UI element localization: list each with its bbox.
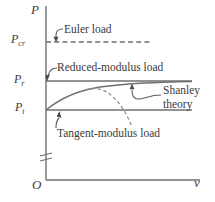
euler-load-leader (54, 29, 63, 43)
descending-branch-curve (80, 89, 132, 127)
tangent-modulus-leader (56, 111, 61, 128)
callout-euler-load: Euler load (64, 24, 112, 36)
callout-tangent-modulus-load: Tangent-modulus load (57, 128, 160, 140)
tick-label-p-cr: Pcr (11, 33, 25, 48)
y-axis-label: P (31, 3, 39, 16)
callout-shanley-theory: Shanley theory (163, 83, 200, 111)
callout-reduced-modulus-load: Reduced-modulus load (57, 62, 163, 74)
tick-label-p-r: Pr (14, 73, 24, 88)
origin-label: O (32, 178, 41, 191)
tick-label-p-t: Pt (15, 101, 25, 116)
shanley-theory-leader (130, 84, 161, 100)
buckling-load-deflection-figure: P v O Pcr Pr Pt Euler load Reduced-modul… (0, 0, 215, 202)
x-axis-label: v (194, 176, 200, 189)
callout-shanley-theory-line2: theory (163, 97, 200, 111)
tick-label-p-cr-subscript: cr (18, 39, 25, 48)
tick-label-p-r-subscript: r (21, 79, 24, 88)
tick-label-p-t-subscript: t (22, 107, 24, 116)
reduced-modulus-leader (45, 68, 57, 82)
callout-shanley-theory-line1: Shanley (163, 83, 200, 97)
